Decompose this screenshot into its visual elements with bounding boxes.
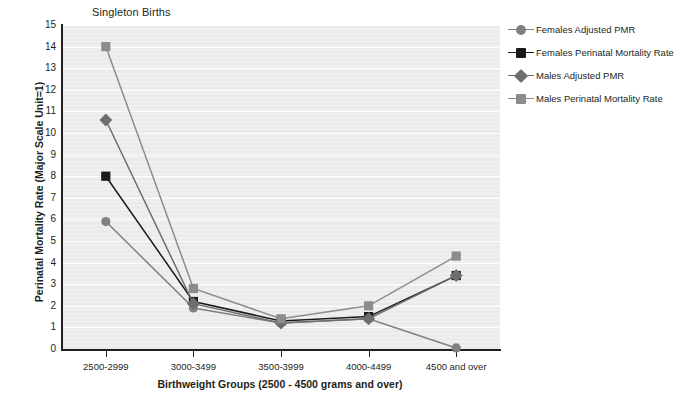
legend-symbol xyxy=(516,25,526,35)
legend-symbol xyxy=(516,94,526,104)
legend-diamond-icon xyxy=(508,69,534,83)
legend-square-icon xyxy=(508,46,534,60)
legend-label: Females Perinatal Mortality Rate xyxy=(534,47,674,58)
data-point xyxy=(364,301,373,310)
legend: Females Adjusted PMRFemales Perinatal Mo… xyxy=(508,20,678,112)
legend-label: Males Perinatal Mortality Rate xyxy=(534,93,663,104)
chart-container: Singleton Births Perinatal Mortality Rat… xyxy=(0,0,678,404)
legend-item[interactable]: Females Adjusted PMR xyxy=(508,20,678,39)
legend-item[interactable]: Males Adjusted PMR xyxy=(508,66,678,85)
legend-circle-icon xyxy=(508,23,534,37)
data-point xyxy=(452,252,461,261)
data-point xyxy=(101,42,110,51)
legend-symbol xyxy=(516,48,526,58)
series-2 xyxy=(101,172,461,326)
series-line xyxy=(106,47,456,319)
x-axis-title: Birthweight Groups (2500 - 4500 grams an… xyxy=(60,378,500,390)
data-point xyxy=(101,172,110,181)
legend-label: Males Adjusted PMR xyxy=(534,70,624,81)
series-4 xyxy=(101,42,461,323)
legend-item[interactable]: Females Perinatal Mortality Rate xyxy=(508,43,678,62)
legend-item[interactable]: Males Perinatal Mortality Rate xyxy=(508,89,678,108)
data-point xyxy=(101,217,110,226)
series-3 xyxy=(99,114,462,330)
series-line xyxy=(106,176,456,321)
series-line xyxy=(106,120,456,323)
legend-symbol xyxy=(514,68,528,82)
data-point xyxy=(189,284,198,293)
data-point xyxy=(452,343,461,352)
data-point xyxy=(99,114,112,127)
legend-square-icon xyxy=(508,92,534,106)
data-point xyxy=(276,314,285,323)
legend-label: Females Adjusted PMR xyxy=(534,24,635,35)
